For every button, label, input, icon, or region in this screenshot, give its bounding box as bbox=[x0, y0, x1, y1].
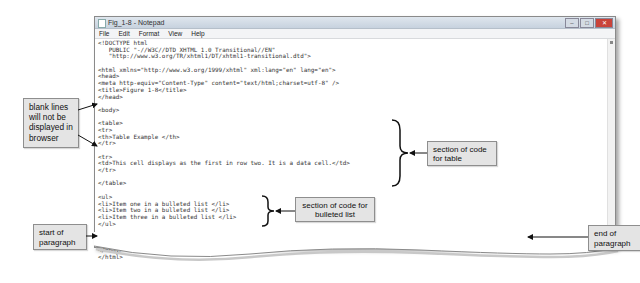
code-line: <head> bbox=[98, 73, 604, 80]
code-line bbox=[98, 100, 604, 107]
window-title: Fig_1-8 - Notepad bbox=[108, 17, 164, 28]
code-line bbox=[98, 147, 604, 154]
callout-start-paragraph: start of paragraph bbox=[33, 224, 87, 250]
code-line: </table> bbox=[98, 180, 604, 187]
code-line: <table> bbox=[98, 120, 604, 127]
code-line: <body> bbox=[98, 107, 604, 114]
callout-end-paragraph: end of paragraph bbox=[588, 225, 640, 251]
code-line: </tr> bbox=[98, 167, 604, 174]
code-line: PUBLIC "-//W3C//DTD XHTML 1.0 Transition… bbox=[98, 47, 604, 54]
minimize-button[interactable]: – bbox=[565, 18, 579, 28]
maximize-button[interactable]: □ bbox=[580, 18, 594, 28]
code-line: <html xmlns="http://www.w3.org/1999/xhtm… bbox=[98, 67, 604, 74]
code-line: <th>Table Example </th> bbox=[98, 134, 604, 141]
callout-section-list-text: section of code for bulleted list bbox=[302, 201, 367, 219]
menu-bar: File Edit Format View Help bbox=[95, 29, 615, 39]
code-line bbox=[98, 114, 604, 121]
code-line: <td>This cell displays as the first in r… bbox=[98, 160, 604, 167]
window-controls: – □ ✕ bbox=[565, 18, 613, 28]
code-line: </tr> bbox=[98, 140, 604, 147]
callout-blank-lines-text: blank lines will not be displayed in bro… bbox=[29, 102, 73, 143]
title-bar[interactable]: Fig_1-8 - Notepad – □ ✕ bbox=[95, 17, 615, 29]
code-line: </head> bbox=[98, 94, 604, 101]
menu-format[interactable]: Format bbox=[139, 29, 160, 38]
vertical-scrollbar[interactable] bbox=[607, 39, 615, 247]
callout-start-paragraph-text: start of paragraph bbox=[39, 228, 75, 247]
scroll-thumb[interactable] bbox=[610, 41, 613, 44]
close-button[interactable]: ✕ bbox=[595, 18, 613, 28]
menu-file[interactable]: File bbox=[99, 29, 109, 38]
torn-edge bbox=[90, 232, 620, 272]
menu-edit[interactable]: Edit bbox=[118, 29, 129, 38]
callout-section-list: section of code for bulleted list bbox=[295, 197, 375, 222]
callout-section-table-text: section of code for table bbox=[433, 145, 487, 163]
menu-help[interactable]: Help bbox=[191, 29, 204, 38]
code-line: <tr> bbox=[98, 154, 604, 161]
code-line bbox=[98, 60, 604, 67]
code-line: <title>Figure 1-8</title> bbox=[98, 87, 604, 94]
callout-section-table: section of code for table bbox=[427, 141, 497, 166]
callout-end-paragraph-text: end of paragraph bbox=[594, 229, 630, 248]
menu-view[interactable]: View bbox=[168, 29, 182, 38]
code-line bbox=[98, 187, 604, 194]
code-line: <meta http-equiv="Content-Type" content=… bbox=[98, 80, 604, 87]
code-line bbox=[98, 174, 604, 181]
code-line: <tr> bbox=[98, 127, 604, 134]
callout-blank-lines: blank lines will not be displayed in bro… bbox=[23, 98, 79, 148]
code-line: "http://www.w3.org/TR/xhtml1/DT/xhtml1-t… bbox=[98, 53, 604, 60]
code-line: <!DOCTYPE html bbox=[98, 40, 604, 47]
notepad-icon bbox=[98, 19, 106, 28]
